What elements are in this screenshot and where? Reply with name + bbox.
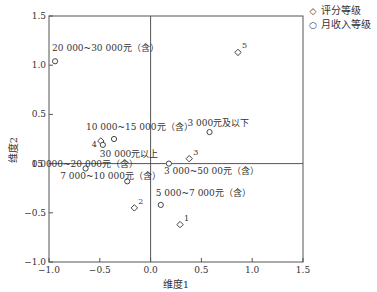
- x-tick-label: 1.5: [296, 265, 311, 275]
- circle-marker-icon: ○: [308, 18, 318, 32]
- point-label: 7 000~10 000元（含）: [60, 170, 161, 181]
- legend-item-income: ○ 月收入等级: [308, 18, 371, 32]
- circle-marker-icon: [158, 202, 163, 207]
- point-label: 30 000元以上: [100, 149, 158, 159]
- x-tick-label: 1.0: [245, 265, 260, 275]
- y-tick-label: −1.0: [24, 257, 46, 267]
- y-tick-label: 1.5: [32, 11, 47, 21]
- point-label: 15 000~20 000元（含）: [32, 158, 139, 169]
- legend-label: 月收入等级: [321, 18, 371, 32]
- legend-label: 评分等级: [321, 4, 361, 18]
- diamond-marker-icon: [186, 155, 192, 161]
- point-label: 10 000~15 000元（含）: [86, 121, 193, 132]
- diamond-marker-icon: [235, 49, 241, 55]
- point-label: 3 000元及以下: [188, 118, 250, 128]
- circle-marker-icon: [111, 136, 116, 141]
- circle-marker-icon: [100, 142, 105, 147]
- data-points: 123453 000元及以下3 000~50 00元（含）5 000~7 000…: [32, 41, 259, 227]
- legend: ◇ 评分等级 ○ 月收入等级: [308, 4, 371, 32]
- y-tick-label: −0.5: [24, 208, 46, 218]
- point-label: 3 000~50 00元（含）: [164, 165, 259, 176]
- circle-marker-icon: [207, 130, 212, 135]
- diamond-marker-icon: [177, 221, 183, 227]
- point-label: 5: [242, 41, 247, 50]
- point-label: 1: [184, 214, 189, 223]
- y-tick-label: 0.5: [32, 109, 47, 119]
- scatter-chart: −1.0−0.50.00.51.01.5 1.51.00.50.0−0.5−1.…: [0, 0, 377, 292]
- legend-item-rating: ◇ 评分等级: [308, 4, 371, 18]
- point-label: 5 000~7 000元（含）: [156, 187, 251, 198]
- point-label: 4: [92, 140, 97, 149]
- x-axis-label: 维度1: [163, 278, 189, 290]
- point-label: 2: [138, 197, 143, 206]
- diamond-marker-icon: ◇: [308, 4, 318, 18]
- x-axis-ticks: −1.0−0.50.00.51.01.5: [38, 258, 310, 275]
- x-tick-label: 0.0: [143, 265, 158, 275]
- point-label: 20 000~30 000元（含）: [52, 42, 159, 53]
- x-tick-label: 0.5: [194, 265, 209, 275]
- diamond-marker-icon: [131, 205, 137, 211]
- y-tick-label: 1.0: [32, 60, 47, 70]
- circle-marker-icon: [52, 59, 57, 64]
- y-axis-label: 维度2: [7, 137, 19, 163]
- point-label: 3: [193, 148, 198, 157]
- x-tick-label: −0.5: [89, 265, 111, 275]
